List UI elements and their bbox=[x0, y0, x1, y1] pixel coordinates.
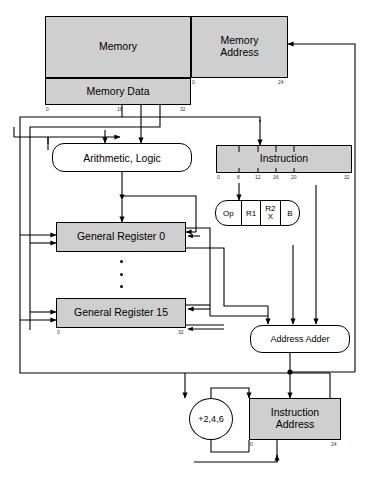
instruction-address-block: Instruction Address bbox=[249, 398, 341, 440]
decode-b-label: B bbox=[287, 209, 292, 218]
instruction-tick-20: 20 bbox=[291, 174, 297, 180]
instruction-tick-0: 0 bbox=[217, 174, 220, 180]
instruction-address-label-line2: Address bbox=[276, 419, 315, 431]
decode-field-op: Op bbox=[216, 201, 241, 225]
decode-field-b: B bbox=[280, 201, 299, 225]
instruction-tick-12: 12 bbox=[255, 174, 261, 180]
instruction-tick-16: 16 bbox=[273, 174, 279, 180]
decode-x-label: X bbox=[268, 213, 273, 221]
instruction-tick-32: 32 bbox=[344, 174, 350, 180]
address-adder-block: Address Adder bbox=[250, 325, 350, 353]
datapath-diagram: Memory Memory Address 0 24 Memory Data 0… bbox=[0, 0, 371, 484]
decode-field-r1: R1 bbox=[241, 201, 260, 225]
instruction-address-label-line1: Instruction bbox=[271, 407, 319, 419]
decode-field-r2x: R2 X bbox=[260, 201, 279, 225]
instruction-address-bit-end: 24 bbox=[331, 441, 337, 447]
address-adder-label: Address Adder bbox=[270, 334, 329, 344]
decode-op-label: Op bbox=[223, 209, 234, 218]
instruction-decode-block: Op R1 R2 X B bbox=[215, 200, 300, 226]
increment-label: +2,4,6 bbox=[198, 414, 223, 424]
decode-r1-label: R1 bbox=[246, 209, 256, 218]
instruction-tick-8: 8 bbox=[237, 174, 240, 180]
instruction-address-bit-start: 0 bbox=[250, 441, 253, 447]
increment-block: +2,4,6 bbox=[189, 398, 233, 440]
